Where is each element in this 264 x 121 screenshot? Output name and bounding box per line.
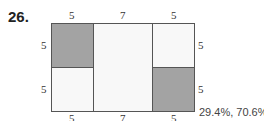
- region-top-right: [152, 23, 195, 68]
- bottom-label-left: 5: [69, 113, 75, 121]
- right-label-bottom: 5: [198, 84, 204, 95]
- bottom-label-middle: 7: [120, 113, 126, 121]
- region-bottom-left: [51, 67, 94, 112]
- region-bottom-right-shaded: [152, 67, 195, 112]
- right-label-top: 5: [198, 40, 204, 51]
- answer-text: 29.4%, 70.6%: [199, 106, 264, 118]
- top-label-middle: 7: [120, 10, 126, 21]
- bottom-label-right: 5: [171, 113, 177, 121]
- left-label-top: 5: [41, 40, 47, 51]
- problem-number: 26.: [8, 8, 29, 25]
- left-label-bottom: 5: [41, 84, 47, 95]
- top-label-right: 5: [171, 10, 177, 21]
- region-middle: [93, 23, 153, 112]
- top-label-left: 5: [69, 10, 75, 21]
- region-top-left-shaded: [51, 23, 94, 68]
